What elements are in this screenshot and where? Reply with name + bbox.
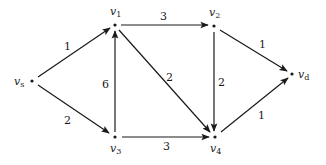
edge-v4-vd: 1 — [221, 78, 288, 132]
edge-vs-v3: 2 — [38, 85, 109, 133]
edge-weight: 3 — [160, 10, 167, 23]
edge-v2-vd: 1 — [220, 30, 287, 71]
node-v3: v3 — [110, 135, 121, 156]
edge-weight: 1 — [64, 40, 71, 53]
node-v2: v2 — [209, 6, 220, 28]
edge-weight: 2 — [166, 71, 173, 84]
node-vd: vd — [290, 68, 309, 82]
node-vs: vs — [14, 75, 34, 89]
edge-v1-v4: 2 — [119, 30, 210, 132]
edge-v3-v4: 3 — [122, 137, 209, 153]
svg-text:v1: v1 — [110, 5, 121, 19]
edge-weight: 1 — [259, 38, 266, 51]
edge-v2-v4: 2 — [214, 32, 225, 131]
svg-text:vs: vs — [14, 75, 24, 89]
svg-text:v2: v2 — [209, 6, 220, 20]
edge-weight: 1 — [258, 109, 265, 122]
edge-v3-v1: 6 — [102, 31, 115, 132]
edge-weight: 2 — [64, 114, 71, 127]
node-v4: v4 — [210, 135, 221, 156]
edge-vs-v1: 1 — [38, 28, 110, 77]
edge-weight: 2 — [218, 76, 225, 89]
node-v1: v1 — [110, 5, 121, 27]
edge-weight: 6 — [102, 78, 109, 91]
edge-v1-v2: 3 — [121, 10, 208, 25]
svg-text:v3: v3 — [110, 142, 121, 156]
network-graph: 1 2 6 3 2 2 1 3 1 vs v1 v2 — [0, 0, 326, 165]
svg-text:v4: v4 — [210, 142, 221, 156]
svg-text:vd: vd — [298, 68, 309, 82]
edge-weight: 3 — [163, 140, 170, 153]
